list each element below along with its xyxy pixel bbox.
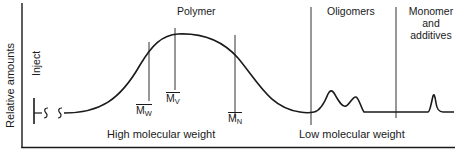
monomer-label-line1: Monomer bbox=[405, 5, 457, 17]
mw-label: MW bbox=[136, 104, 152, 119]
y-axis-label: Relative amounts bbox=[4, 43, 16, 128]
inject-label: Inject bbox=[30, 51, 42, 76]
monomer-additives-label: Monomer and additives bbox=[405, 5, 457, 41]
low-molecular-weight-label: Low molecular weight bbox=[299, 128, 405, 140]
polymer-label: Polymer bbox=[177, 5, 216, 17]
axis-break-icon bbox=[44, 108, 48, 118]
oligomers-label: Oligomers bbox=[327, 5, 375, 17]
monomer-label-line2: and bbox=[405, 17, 457, 29]
chromatogram-trace bbox=[64, 34, 454, 113]
monomer-label-line3: additives bbox=[405, 29, 457, 41]
axis-break-icon bbox=[58, 108, 62, 118]
high-molecular-weight-label: High molecular weight bbox=[107, 128, 215, 140]
mv-label: MV bbox=[166, 92, 180, 107]
mn-label: MN bbox=[228, 112, 242, 127]
